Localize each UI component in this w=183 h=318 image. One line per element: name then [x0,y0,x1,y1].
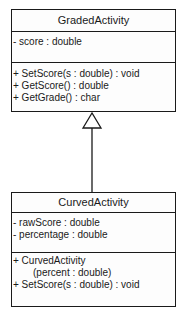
attribute: - percentage : double [13,229,175,241]
operations-compartment: + CurvedActivity (percent : double) + Se… [12,253,175,306]
operation: + SetScore(s : double) : void [13,279,175,291]
hollow-triangle-arrowhead [83,113,101,128]
attribute: - rawScore : double [13,217,175,229]
attributes-compartment: - rawScore : double - percentage : doubl… [12,213,175,253]
operation: + CurvedActivity [13,255,175,267]
class-curved-activity: CurvedActivity - rawScore : double - per… [11,192,176,307]
class-name: CurvedActivity [12,193,175,213]
operation-continuation: (percent : double) [13,267,175,279]
